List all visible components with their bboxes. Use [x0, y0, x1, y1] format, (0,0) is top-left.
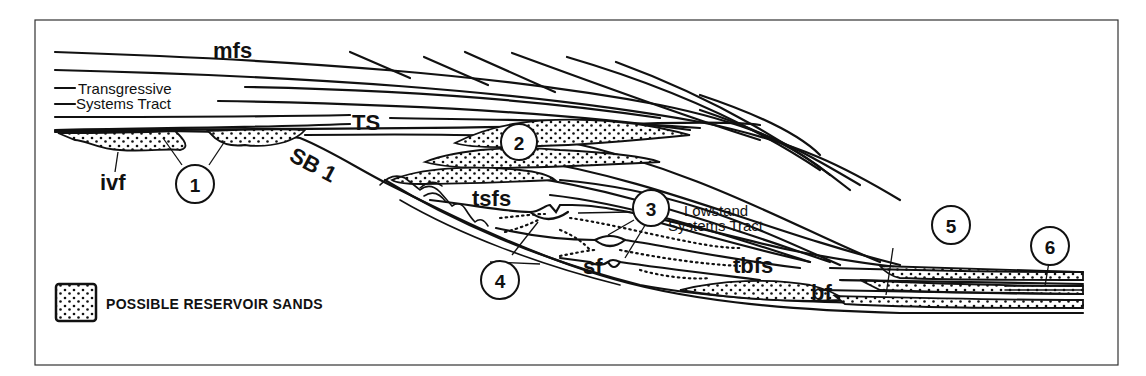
callout-3: 3	[633, 190, 669, 226]
svg-text:2: 2	[514, 133, 525, 154]
callout-5: 5	[932, 206, 970, 244]
svg-text:6: 6	[1045, 237, 1056, 258]
label-tsfs: tsfs	[472, 186, 511, 211]
incised-valley-fill-sand-right	[208, 129, 305, 146]
sequence-stratigraphy-diagram: mfs Transgressive Systems Tract TS SB 1 …	[0, 0, 1146, 376]
svg-text:1: 1	[190, 175, 201, 196]
label-sf: sf	[583, 254, 603, 279]
label-mfs: mfs	[213, 38, 252, 63]
callout-4: 4	[481, 261, 519, 299]
callout-2: 2	[501, 124, 537, 160]
label-transgressive-line2: Systems Tract	[76, 95, 172, 112]
incised-valley-fill-sand	[58, 131, 185, 151]
label-tbfs: tbfs	[733, 253, 773, 278]
legend: POSSIBLE RESERVOIR SANDS	[56, 284, 323, 321]
svg-text:5: 5	[946, 216, 957, 237]
distal-sand-lower	[835, 296, 1083, 308]
label-lowstand-line2: Systems Tract	[668, 217, 764, 234]
label-ts: TS	[352, 110, 380, 135]
label-sb1: SB 1	[286, 142, 341, 187]
svg-text:4: 4	[495, 271, 506, 292]
transgressive-sand-lens-middle	[425, 148, 660, 168]
transgressive-sand-lens-lower	[392, 168, 555, 184]
callout-6: 6	[1031, 227, 1069, 265]
svg-text:3: 3	[646, 199, 657, 220]
legend-sand-swatch	[56, 284, 96, 321]
callout-1: 1	[176, 165, 214, 203]
label-ivf: ivf	[100, 170, 126, 195]
legend-label: POSSIBLE RESERVOIR SANDS	[106, 296, 323, 312]
label-bf: bf	[811, 280, 832, 305]
